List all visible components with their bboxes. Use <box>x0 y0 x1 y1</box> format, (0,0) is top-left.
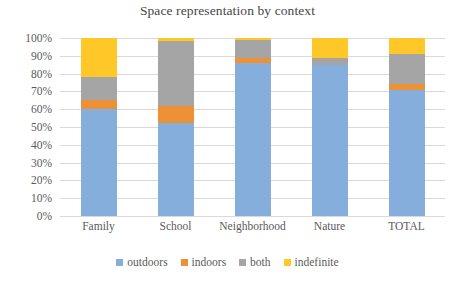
y-axis-tick-label: 20% <box>0 174 52 186</box>
stacked-bar[interactable] <box>389 38 425 216</box>
legend-label: both <box>250 256 270 268</box>
y-axis-tick-label: 90% <box>0 50 52 62</box>
x-axis: FamilySchoolNeighborhoodNatureTOTAL <box>60 220 445 240</box>
bar-segment-indefinite[interactable] <box>235 38 271 40</box>
y-axis-tick-label: 50% <box>0 121 52 133</box>
bar-group-family <box>60 38 137 216</box>
y-axis-tick-label: 70% <box>0 85 52 97</box>
stacked-bar[interactable] <box>235 38 271 216</box>
legend-swatch-icon <box>284 259 291 266</box>
stacked-bar[interactable] <box>158 38 194 216</box>
y-axis-tick-label: 30% <box>0 157 52 169</box>
bar-segment-indefinite[interactable] <box>81 38 117 77</box>
bar-segment-both[interactable] <box>158 41 194 106</box>
bar-segment-outdoors[interactable] <box>312 65 348 216</box>
bar-group-nature <box>291 38 368 216</box>
legend-item-both[interactable]: both <box>239 256 270 268</box>
bar-group-neighborhood <box>214 38 291 216</box>
legend-label: indoors <box>192 256 227 268</box>
stacked-bar[interactable] <box>81 38 117 216</box>
y-axis-tick-label: 40% <box>0 139 52 151</box>
legend-label: outdoors <box>127 256 167 268</box>
bar-segment-outdoors[interactable] <box>235 63 271 216</box>
gridline <box>60 216 445 217</box>
bar-segment-outdoors[interactable] <box>158 123 194 216</box>
y-axis-tick-label: 100% <box>0 32 52 44</box>
y-axis-tick-label: 80% <box>0 68 52 80</box>
x-axis-tick-label: Nature <box>291 220 368 232</box>
legend-item-indefinite[interactable]: indefinite <box>284 256 339 268</box>
bar-segment-both[interactable] <box>312 58 348 65</box>
bar-segment-indoors[interactable] <box>235 58 271 63</box>
chart-legend: outdoorsindoorsbothindefinite <box>0 252 455 272</box>
plot-area <box>60 38 445 216</box>
legend-swatch-icon <box>181 259 188 266</box>
stacked-bar[interactable] <box>312 38 348 216</box>
bar-segment-indefinite[interactable] <box>158 38 194 41</box>
y-axis-tick-label: 60% <box>0 103 52 115</box>
x-axis-tick-label: Neighborhood <box>214 220 291 232</box>
legend-label: indefinite <box>295 256 339 268</box>
legend-swatch-icon <box>239 259 246 266</box>
bar-group-school <box>137 38 214 216</box>
bar-segment-both[interactable] <box>81 77 117 100</box>
x-axis-tick-label: TOTAL <box>368 220 445 232</box>
bar-segment-both[interactable] <box>235 40 271 58</box>
x-axis-tick-label: Family <box>60 220 137 232</box>
legend-item-outdoors[interactable]: outdoors <box>116 256 167 268</box>
legend-swatch-icon <box>116 259 123 266</box>
y-axis: 0%10%20%30%40%50%60%70%80%90%100% <box>0 38 56 216</box>
x-axis-tick-label: School <box>137 220 214 232</box>
chart-title: Space representation by context <box>0 3 455 19</box>
legend-item-indoors[interactable]: indoors <box>181 256 227 268</box>
bar-segment-indoors[interactable] <box>389 84 425 89</box>
bar-segment-indefinite[interactable] <box>312 38 348 58</box>
bar-segment-outdoors[interactable] <box>389 90 425 216</box>
bar-group-total <box>368 38 445 216</box>
chart-container: Space representation by context 0%10%20%… <box>0 0 455 281</box>
y-axis-tick-label: 10% <box>0 192 52 204</box>
bar-segment-outdoors[interactable] <box>81 109 117 216</box>
bar-segment-indefinite[interactable] <box>389 38 425 54</box>
bar-segment-indoors[interactable] <box>81 100 117 109</box>
bar-segment-indoors[interactable] <box>158 106 194 124</box>
y-axis-tick-label: 0% <box>0 210 52 222</box>
bar-segment-both[interactable] <box>389 54 425 84</box>
